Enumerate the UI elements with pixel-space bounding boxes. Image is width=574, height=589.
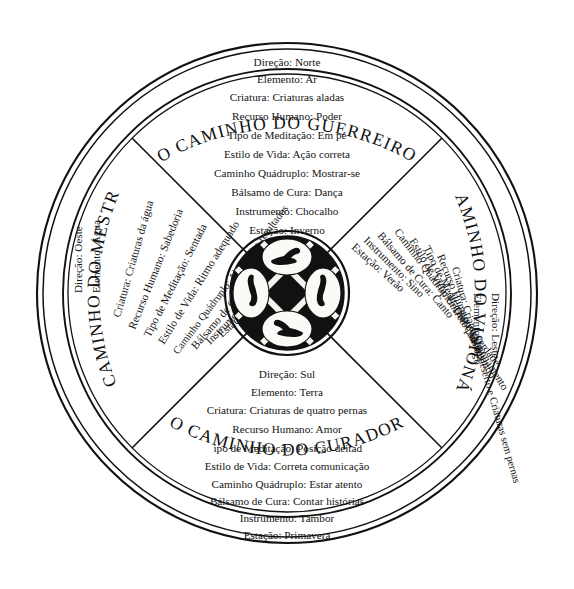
- west-line-1: Direção: Oeste: [72, 226, 84, 293]
- medallion-right: [305, 268, 341, 318]
- medallion-top: [262, 239, 312, 275]
- north-line-9: Instrumento: Chocalho: [0, 0, 374, 217]
- medallion-bottom: [262, 311, 312, 347]
- north-line-2: Elemento: Ar: [0, 0, 361, 85]
- north-line-1: Direção: Norte: [0, 0, 357, 68]
- quadrant-north-text: Direção: Norte Elemento: Ar Criatura: Cr…: [0, 0, 380, 236]
- arc-title-east: O CAMINHO DO VISIONÁRIO: [0, 0, 491, 397]
- medallion-left: [233, 268, 269, 318]
- central-hub: [225, 231, 349, 355]
- wheel-canvas: O CAMINHO DO GUERREIRO O CAMINHO DO CURA…: [0, 0, 574, 589]
- west-line-2: Elemento: Água: [90, 220, 102, 293]
- north-line-3: Criatura: Criaturas aladas: [0, 0, 372, 103]
- medicine-wheel-figure: O CAMINHO DO GUERREIRO O CAMINHO DO CURA…: [0, 0, 574, 589]
